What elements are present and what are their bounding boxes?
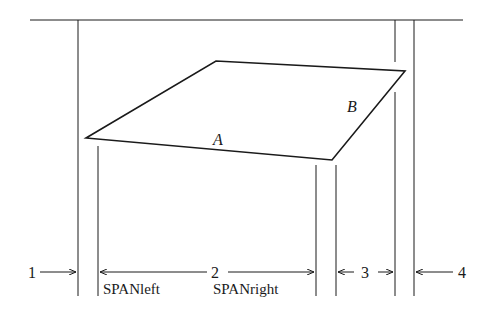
region-label-3: 3 (361, 264, 369, 281)
region-label-4: 4 (458, 264, 466, 281)
region-label-2: 2 (211, 264, 219, 281)
span-left-label: SPANleft (103, 281, 161, 297)
span-diagram: A B 1 2 3 4 SPANleft SPANright (0, 0, 485, 322)
region-label-1: 1 (28, 264, 36, 281)
edge-label-b: B (347, 98, 357, 115)
polygon-shape (86, 61, 405, 160)
edge-label-a: A (212, 131, 223, 148)
span-right-label: SPANright (213, 281, 279, 297)
